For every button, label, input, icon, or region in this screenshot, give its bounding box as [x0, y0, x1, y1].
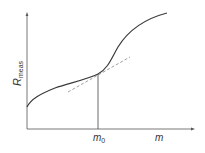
axes	[26, 12, 195, 130]
m0-label: m0	[93, 132, 105, 144]
tangent-line	[68, 57, 130, 92]
m0-label-main: m	[93, 132, 101, 143]
m0-label-subscript: 0	[101, 137, 105, 144]
r-meas-curve	[27, 13, 167, 107]
r-meas-vs-m-diagram: Rmeas m0 m	[0, 0, 205, 153]
y-axis-label-subscript: meas	[17, 60, 24, 78]
y-axis-label: Rmeas	[11, 60, 24, 86]
x-axis-arrow-icon	[191, 128, 195, 131]
y-axis-label-main: R	[11, 78, 23, 86]
x-axis-label: m	[155, 132, 163, 143]
y-axis-arrow-icon	[26, 12, 29, 16]
